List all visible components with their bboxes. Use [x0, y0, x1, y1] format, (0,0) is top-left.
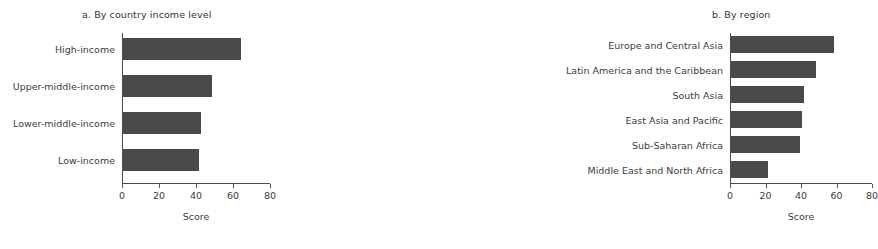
category-label: Upper-middle-income	[13, 81, 115, 92]
x-axis-tick-label: 80	[264, 190, 276, 201]
category-label: South Asia	[672, 89, 723, 100]
x-axis-title: Score	[788, 211, 815, 222]
x-axis-tick-label: 60	[830, 190, 842, 201]
bar	[123, 75, 212, 97]
x-axis-tick	[122, 184, 123, 188]
bar	[731, 161, 768, 178]
plot-area-region: Europe and Central AsiaLatin America and…	[730, 33, 872, 184]
bar-row: Lower-middle-income	[122, 112, 270, 134]
category-label: Lower-middle-income	[13, 118, 115, 129]
x-axis-tick	[837, 184, 838, 188]
x-axis-tick	[270, 184, 271, 188]
x-axis-tick	[730, 184, 731, 188]
plot-area-income-level: High-incomeUpper-middle-incomeLower-midd…	[122, 33, 270, 184]
x-axis-tick-label: 20	[759, 190, 771, 201]
panel-a-title: a. By country income level	[82, 9, 211, 20]
bar-row: Europe and Central Asia	[730, 36, 872, 53]
category-label: Middle East and North Africa	[588, 164, 724, 175]
bar	[731, 86, 804, 103]
x-axis-tick	[233, 184, 234, 188]
panel-b-title: b. By region	[712, 9, 770, 20]
category-label: Low-income	[58, 155, 115, 166]
x-axis-title: Score	[183, 211, 210, 222]
bar-row: East Asia and Pacific	[730, 111, 872, 128]
x-axis-tick-label: 0	[727, 190, 733, 201]
bar	[731, 111, 802, 128]
x-axis-tick	[159, 184, 160, 188]
chart-panel-region: b. By region Europe and Central AsiaLati…	[294, 0, 588, 249]
bar-row: Upper-middle-income	[122, 75, 270, 97]
chart-panel-income-level: a. By country income level High-incomeUp…	[0, 0, 294, 249]
bar	[123, 112, 201, 134]
category-label: Latin America and the Caribbean	[566, 64, 723, 75]
bar	[123, 38, 241, 60]
bar	[731, 61, 816, 78]
bar	[731, 136, 800, 153]
bar-row: South Asia	[730, 86, 872, 103]
category-label: Europe and Central Asia	[608, 39, 723, 50]
category-label: High-income	[55, 44, 115, 55]
x-axis-tick-label: 0	[119, 190, 125, 201]
bar-row: Sub-Saharan Africa	[730, 136, 872, 153]
x-axis-tick-label: 20	[153, 190, 165, 201]
bar-row: Latin America and the Caribbean	[730, 61, 872, 78]
category-label: Sub-Saharan Africa	[632, 139, 723, 150]
bar-row: Middle East and North Africa	[730, 161, 872, 178]
bar	[731, 36, 834, 53]
bar-row: Low-income	[122, 149, 270, 171]
x-axis-tick	[801, 184, 802, 188]
x-axis-tick-label: 80	[866, 190, 878, 201]
x-axis-tick-label: 60	[227, 190, 239, 201]
category-label: East Asia and Pacific	[625, 114, 723, 125]
x-axis-tick	[766, 184, 767, 188]
bar	[123, 149, 199, 171]
x-axis-tick	[872, 184, 873, 188]
bar-row: High-income	[122, 38, 270, 60]
x-axis-tick-label: 40	[795, 190, 807, 201]
x-axis-tick-label: 40	[190, 190, 202, 201]
x-axis-tick	[196, 184, 197, 188]
